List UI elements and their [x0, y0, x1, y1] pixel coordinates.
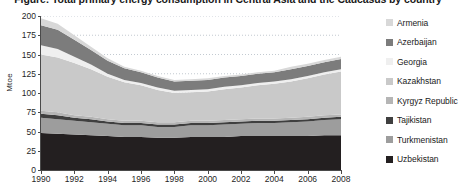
- chart-legend: ArmeniaAzerbaijanGeorgiaKazakhstanKyrgyz…: [386, 13, 456, 169]
- legend-item-turkmenistan[interactable]: Turkmenistan: [386, 130, 456, 150]
- legend-swatch-icon: [386, 136, 393, 143]
- legend-item-label: Tajikistan: [397, 115, 431, 125]
- legend-swatch-icon: [386, 19, 393, 26]
- x-tick-label: 2000: [191, 174, 225, 184]
- y-tick-label: 175: [12, 30, 36, 40]
- chart-title: Figure: Total primary energy consumption…: [0, 0, 456, 7]
- legend-item-tajikistan[interactable]: Tajikistan: [386, 111, 456, 131]
- legend-swatch-icon: [386, 58, 393, 65]
- x-tick-label: 2008: [324, 174, 358, 184]
- legend-item-kazakhstan[interactable]: Kazakhstan: [386, 72, 456, 92]
- y-tick-label: 50: [12, 127, 36, 137]
- legend-item-label: Uzbekistan: [397, 154, 439, 164]
- y-tick-label: 200: [12, 11, 36, 21]
- y-tick-label: 25: [12, 146, 36, 156]
- legend-item-azerbaijan[interactable]: Azerbaijan: [386, 33, 456, 53]
- x-axis-line: [40, 170, 342, 171]
- x-tick-label: 1998: [157, 174, 191, 184]
- y-tick-label: 100: [12, 88, 36, 98]
- x-tick-label: 1994: [91, 174, 125, 184]
- y-tick-label: 125: [12, 69, 36, 79]
- x-tick-label: 1992: [57, 174, 91, 184]
- legend-item-label: Georgia: [397, 57, 427, 67]
- legend-item-label: Turkmenistan: [397, 135, 448, 145]
- legend-item-georgia[interactable]: Georgia: [386, 52, 456, 72]
- legend-swatch-icon: [386, 156, 393, 163]
- x-tick-label: 1990: [24, 174, 58, 184]
- plot-area: [41, 16, 341, 170]
- x-tick-label: 2002: [224, 174, 258, 184]
- y-tick-label: 75: [12, 107, 36, 117]
- legend-item-label: Kyrgyz Republic: [397, 96, 458, 106]
- legend-item-uzbekistan[interactable]: Uzbekistan: [386, 150, 456, 170]
- legend-swatch-icon: [386, 117, 393, 124]
- legend-item-armenia[interactable]: Armenia: [386, 13, 456, 33]
- x-tick-label: 2006: [291, 174, 325, 184]
- legend-swatch-icon: [386, 39, 393, 46]
- legend-item-label: Armenia: [397, 18, 428, 28]
- x-tick-label: 1996: [124, 174, 158, 184]
- stacked-area-plot: [41, 16, 341, 170]
- x-tick-label: 2004: [257, 174, 291, 184]
- legend-swatch-icon: [386, 97, 393, 104]
- area-series-uzbekistan: [41, 133, 341, 170]
- legend-item-kyrgyz-republic[interactable]: Kyrgyz Republic: [386, 91, 456, 111]
- legend-item-label: Azerbaijan: [397, 37, 437, 47]
- legend-swatch-icon: [386, 78, 393, 85]
- y-tick-label: 150: [12, 50, 36, 60]
- legend-item-label: Kazakhstan: [397, 76, 441, 86]
